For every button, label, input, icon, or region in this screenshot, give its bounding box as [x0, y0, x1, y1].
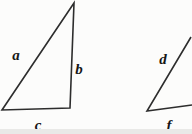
scan-edge-shadow [0, 129, 192, 134]
side-d-label: d [159, 51, 167, 67]
side-a-label: a [12, 47, 20, 63]
triangles-svg: a b c d f [0, 0, 192, 134]
side-b-label: b [75, 61, 83, 77]
figure-background [0, 0, 192, 134]
triangle-figure: a b c d f [0, 0, 192, 134]
